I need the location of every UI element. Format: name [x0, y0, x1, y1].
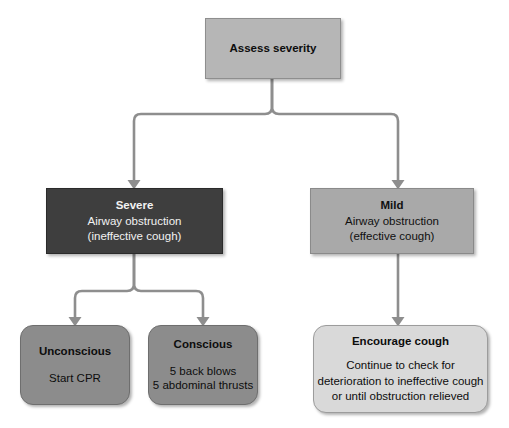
- node-conscious[interactable]: Conscious 5 back blows 5 abdominal thrus…: [148, 325, 258, 405]
- edge-assess-to-mild: [272, 79, 398, 180]
- node-mild-line-2: (effective cough): [350, 229, 435, 244]
- edge-severe-to-unconscious: [75, 254, 134, 317]
- flowchart-canvas: Assess severity Severe Airway obstructio…: [0, 0, 509, 428]
- node-encourage-cough-line-2: deterioration to ineffective cough: [317, 374, 483, 389]
- edge-severe-to-conscious: [134, 254, 203, 317]
- node-unconscious[interactable]: Unconscious Start CPR: [20, 325, 130, 405]
- node-severe-title: Severe: [116, 198, 154, 213]
- edge-assess-to-severe: [134, 79, 272, 180]
- node-conscious-line-2: 5 abdominal thrusts: [153, 378, 253, 393]
- node-conscious-line-1: 5 back blows: [170, 364, 236, 379]
- node-severe[interactable]: Severe Airway obstruction (ineffective c…: [46, 188, 223, 254]
- node-unconscious-title: Unconscious: [39, 344, 111, 359]
- node-unconscious-line-1: Start CPR: [49, 371, 101, 386]
- node-mild-line-1: Airway obstruction: [345, 214, 439, 229]
- node-mild[interactable]: Mild Airway obstruction (effective cough…: [310, 188, 474, 254]
- node-severe-line-2: (ineffective cough): [88, 229, 182, 244]
- node-conscious-title: Conscious: [174, 337, 233, 352]
- node-encourage-cough-title: Encourage cough: [352, 334, 449, 349]
- node-mild-title: Mild: [381, 198, 404, 213]
- node-encourage-cough-line-3: or until obstruction relieved: [332, 389, 469, 404]
- node-assess-severity-title: Assess severity: [230, 41, 317, 56]
- node-encourage-cough-line-1: Continue to check for: [346, 358, 455, 373]
- node-assess-severity[interactable]: Assess severity: [205, 18, 341, 79]
- node-severe-line-1: Airway obstruction: [88, 214, 182, 229]
- node-encourage-cough[interactable]: Encourage cough Continue to check for de…: [313, 325, 488, 413]
